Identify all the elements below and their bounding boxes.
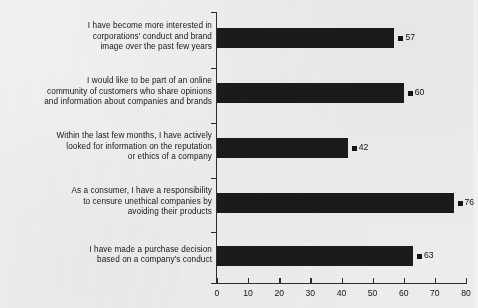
x-tick-label-0: 0: [205, 288, 229, 298]
value-marker-2: [352, 146, 357, 151]
category-label-1: I would like to be part of an onlinecomm…: [0, 76, 212, 107]
x-tick-label-70: 70: [423, 288, 447, 298]
category-label-line: image over the past few years: [0, 42, 212, 52]
category-label-line: I have made a purchase decision: [0, 245, 212, 255]
y-tick-2: [211, 123, 217, 124]
x-tick-80: [466, 278, 467, 284]
value-marker-4: [417, 254, 422, 259]
category-label-line: I would like to be part of an online: [0, 76, 212, 86]
category-label-0: I have become more interested incorporat…: [0, 21, 212, 52]
x-tick-0: [217, 278, 218, 284]
bar-0: [217, 28, 394, 48]
x-tick-30: [310, 278, 311, 284]
category-label-line: avoiding their products: [0, 207, 212, 217]
category-label-4: I have made a purchase decisionbased on …: [0, 245, 212, 266]
category-label-line: based on a company's conduct: [0, 255, 212, 265]
bar-2: [217, 138, 348, 158]
value-label-3: 76: [465, 198, 475, 207]
category-label-3: As a consumer, I have a responsibilityto…: [0, 186, 212, 217]
value-label-2: 42: [359, 143, 369, 152]
x-tick-label-80: 80: [454, 288, 478, 298]
x-tick-label-30: 30: [298, 288, 322, 298]
y-tick-0: [211, 12, 217, 13]
category-label-line: and information about companies and bran…: [0, 97, 212, 107]
x-tick-label-60: 60: [392, 288, 416, 298]
y-tick-1: [211, 68, 217, 69]
category-label-line: I have become more interested in: [0, 21, 212, 31]
y-tick-4: [211, 232, 217, 233]
x-tick-label-50: 50: [361, 288, 385, 298]
x-tick-40: [342, 278, 343, 284]
category-label-line: community of customers who share opinion…: [0, 87, 212, 97]
x-tick-label-20: 20: [267, 288, 291, 298]
bar-4: [217, 246, 413, 266]
x-tick-50: [373, 278, 374, 284]
x-tick-label-10: 10: [236, 288, 260, 298]
x-tick-20: [279, 278, 280, 284]
value-marker-3: [458, 201, 463, 206]
x-tick-60: [404, 278, 405, 284]
category-label-line: to censure unethical companies by: [0, 197, 212, 207]
x-tick-10: [248, 278, 249, 284]
y-tick-3: [211, 178, 217, 179]
value-marker-0: [398, 36, 403, 41]
bar-1: [217, 83, 404, 103]
value-marker-1: [408, 91, 413, 96]
x-tick-70: [435, 278, 436, 284]
category-label-line: looked for information on the reputation: [0, 142, 212, 152]
x-tick-label-40: 40: [330, 288, 354, 298]
category-label-2: Within the last few months, I have activ…: [0, 131, 212, 162]
value-label-0: 57: [405, 33, 415, 42]
value-label-4: 63: [424, 251, 434, 260]
value-label-1: 60: [415, 88, 425, 97]
category-label-line: Within the last few months, I have activ…: [0, 131, 212, 141]
bar-3: [217, 193, 454, 213]
category-label-line: or ethics of a company: [0, 152, 212, 162]
category-label-line: corporations' conduct and brand: [0, 32, 212, 42]
category-label-line: As a consumer, I have a responsibility: [0, 186, 212, 196]
